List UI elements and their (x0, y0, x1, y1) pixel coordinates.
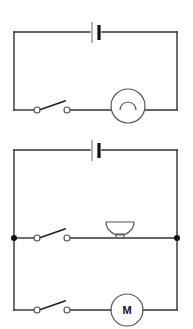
bottom-circuit: M (11, 140, 180, 326)
circuit-diagram-canvas: M (0, 0, 193, 329)
switch-blade[interactable] (39, 101, 65, 110)
open-switch-symbol[interactable] (34, 101, 70, 113)
lamp-filament-dome (120, 102, 136, 110)
switch-right-terminal (64, 235, 70, 241)
motor-symbol: M (111, 294, 143, 326)
lamp-symbol (111, 89, 145, 123)
motor-label: M (122, 304, 131, 316)
left-junction-node (11, 235, 17, 241)
switch-right-terminal (64, 307, 70, 313)
battery-cell-symbol (92, 22, 99, 43)
open-switch-bell-branch-symbol[interactable] (34, 229, 70, 241)
bell-dome (106, 222, 134, 235)
lamp-envelope (111, 89, 145, 123)
switch-left-terminal (34, 235, 40, 241)
circuit-diagram-svg: M (0, 0, 193, 329)
switch-left-terminal (34, 107, 40, 113)
switch-left-terminal (34, 307, 40, 313)
battery-cell-symbol (92, 140, 99, 161)
bell-symbol (106, 222, 134, 238)
switch-right-terminal (64, 107, 70, 113)
open-switch-motor-branch-symbol[interactable] (34, 301, 70, 313)
switch-blade[interactable] (39, 229, 65, 238)
switch-blade[interactable] (39, 301, 65, 310)
right-junction-node (174, 235, 180, 241)
top-circuit (14, 22, 177, 123)
